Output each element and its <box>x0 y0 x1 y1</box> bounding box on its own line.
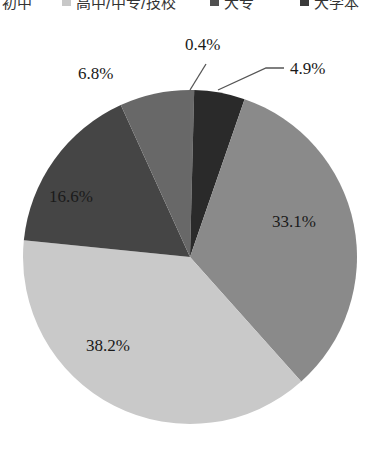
slice-label-0: 0.4% <box>185 36 220 53</box>
leader-line-4-9 <box>218 68 284 90</box>
leader-line-0-4 <box>190 64 206 90</box>
slice-label-4: 16.6% <box>49 188 93 205</box>
slice-label-1: 4.9% <box>290 60 325 77</box>
pie-slices <box>23 90 357 424</box>
slice-label-5: 6.8% <box>78 65 113 82</box>
slice-label-2: 33.1% <box>272 213 316 230</box>
slice-label-3: 38.2% <box>86 337 130 354</box>
